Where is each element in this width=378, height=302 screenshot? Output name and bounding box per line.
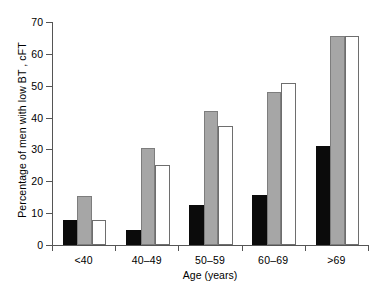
bar-gray-4 xyxy=(330,36,345,245)
bar-black-2 xyxy=(189,205,204,245)
x-tick-label: >69 xyxy=(327,254,345,266)
y-tick-label: 70 xyxy=(19,16,43,28)
x-tick xyxy=(242,245,243,251)
bar-white-0 xyxy=(92,220,107,245)
bar-gray-2 xyxy=(204,111,219,245)
x-tick xyxy=(368,245,369,251)
x-tick-label: <40 xyxy=(74,254,92,266)
x-tick-label: 50–59 xyxy=(195,254,225,266)
y-tick-label: 10 xyxy=(19,207,43,219)
bar-black-1 xyxy=(126,230,141,245)
x-tick xyxy=(178,245,179,251)
bar-black-4 xyxy=(316,146,331,245)
chart-figure: Percentage of men with low BT , cFT 0102… xyxy=(0,0,378,302)
x-axis-label: Age (years) xyxy=(52,269,368,281)
plot-area: 010203040506070 <4040–4950–5960–69>69 xyxy=(52,22,368,245)
x-tick xyxy=(52,245,53,251)
x-tick-label: 40–49 xyxy=(132,254,162,266)
bar-black-3 xyxy=(252,195,267,245)
x-axis-line xyxy=(52,245,368,246)
y-tick-label: 0 xyxy=(19,239,43,251)
y-tick-label: 20 xyxy=(19,175,43,187)
y-tick-label: 50 xyxy=(19,80,43,92)
y-tick-label: 40 xyxy=(19,112,43,124)
bar-gray-1 xyxy=(141,148,156,245)
y-tick-label: 30 xyxy=(19,143,43,155)
bar-gray-0 xyxy=(77,196,92,245)
bar-white-3 xyxy=(281,83,296,245)
bars-layer xyxy=(52,22,368,245)
bar-white-2 xyxy=(218,126,233,245)
bar-black-0 xyxy=(63,220,78,245)
bar-gray-3 xyxy=(267,92,282,245)
x-tick xyxy=(305,245,306,251)
bar-white-4 xyxy=(345,36,360,245)
bar-white-1 xyxy=(155,165,170,245)
y-tick-label: 60 xyxy=(19,48,43,60)
x-tick xyxy=(115,245,116,251)
x-tick-label: 60–69 xyxy=(258,254,288,266)
